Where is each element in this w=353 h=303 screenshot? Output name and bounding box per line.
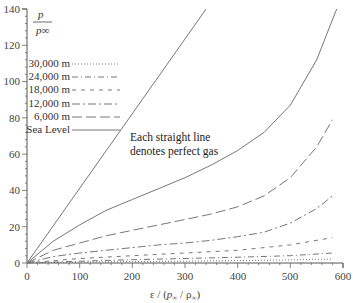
x-tick-300: 300 — [177, 270, 194, 282]
y-tick-60: 60 — [9, 148, 21, 160]
annotation: Each straight line denotes perfect gas — [130, 131, 219, 158]
legend: 30,000 m 24,000 m 18,000 m 12,000 m 6,00… — [26, 57, 120, 135]
annotation-line-1: Each straight line — [130, 131, 210, 144]
legend-label-12000: 12,000 m — [28, 97, 70, 109]
y-label-denominator: p∞ — [35, 24, 50, 36]
y-axis-label: p p∞ — [33, 8, 52, 36]
y-tick-0: 0 — [15, 257, 21, 269]
y-label-numerator: p — [37, 8, 44, 20]
x-tick-600: 600 — [335, 270, 352, 282]
annotation-line-2: denotes perfect gas — [130, 145, 219, 158]
x-tick-400: 400 — [230, 270, 247, 282]
x-tick-500: 500 — [282, 270, 299, 282]
x-tick-labels: 0 100 200 300 400 500 600 — [24, 270, 352, 282]
series-24-000-m — [27, 253, 333, 263]
series-18-000-m — [27, 238, 333, 263]
legend-label-30000: 30,000 m — [28, 57, 70, 69]
pressure-energy-chart: 0 20 40 60 80 100 120 140 0 100 200 300 … — [0, 0, 353, 303]
y-tick-100: 100 — [4, 75, 21, 87]
legend-label-18000: 18,000 m — [28, 83, 70, 95]
legend-label-6000: 6,000 m — [34, 110, 71, 122]
x-axis-label: ε / (p∞ / ρ∞) — [150, 288, 200, 302]
y-ticks — [22, 9, 27, 263]
y-tick-labels: 0 20 40 60 80 100 120 140 — [4, 3, 21, 269]
y-tick-20: 20 — [9, 221, 21, 233]
x-ticks — [27, 263, 343, 268]
y-tick-80: 80 — [9, 112, 21, 124]
y-tick-40: 40 — [9, 184, 21, 196]
legend-label-sea-level: Sea Level — [26, 123, 70, 135]
series-30-000-m — [27, 259, 333, 263]
y-tick-140: 140 — [4, 3, 21, 15]
legend-label-24000: 24,000 m — [28, 70, 70, 82]
y-tick-120: 120 — [4, 39, 21, 51]
y-axis — [22, 9, 27, 263]
x-tick-200: 200 — [124, 270, 141, 282]
x-tick-100: 100 — [72, 270, 89, 282]
x-tick-0: 0 — [24, 270, 30, 282]
